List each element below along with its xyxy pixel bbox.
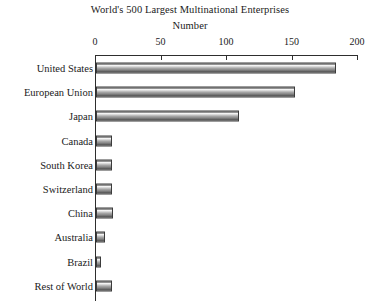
bar-switzerland: [96, 184, 112, 195]
category-label: Brazil: [67, 256, 93, 267]
bar-canada: [96, 135, 112, 146]
bar-row: European Union: [0, 80, 380, 104]
bar-row: Canada: [0, 129, 380, 153]
x-tick-label-150: 150: [284, 36, 299, 47]
bar-row: China: [0, 201, 380, 225]
bar-row: Brazil: [0, 250, 380, 274]
category-label: European Union: [24, 87, 93, 98]
x-tick-label-0: 0: [93, 36, 98, 47]
category-label: China: [68, 208, 93, 219]
bar-row: Australia: [0, 225, 380, 249]
x-tick-label-100: 100: [219, 36, 234, 47]
chart-title: World's 500 Largest Multinational Enterp…: [0, 4, 380, 15]
bar-european-union: [96, 87, 295, 98]
bar-south-korea: [96, 159, 112, 170]
axis-title: Number: [0, 20, 380, 31]
bar-row: United States: [0, 56, 380, 80]
bar-japan: [96, 111, 239, 122]
bar-row: South Korea: [0, 153, 380, 177]
bar-brazil: [96, 256, 101, 267]
bar-chart: World's 500 Largest Multinational Enterp…: [0, 0, 380, 306]
category-label: Canada: [62, 135, 94, 146]
category-label: United States: [37, 63, 93, 74]
category-label: Japan: [69, 111, 93, 122]
category-label: Rest of World: [35, 280, 93, 291]
bar-australia: [96, 232, 105, 243]
category-label: Australia: [55, 232, 94, 243]
bar-row: Japan: [0, 104, 380, 128]
category-label: South Korea: [40, 159, 93, 170]
x-tick-label-50: 50: [156, 36, 166, 47]
bar-china: [96, 208, 113, 219]
bar-row: Switzerland: [0, 177, 380, 201]
bar-row: Rest of World: [0, 274, 380, 298]
bar-united-states: [96, 63, 336, 74]
x-tick-label-200: 200: [350, 36, 365, 47]
category-label: Switzerland: [43, 184, 93, 195]
bar-rest-of-world: [96, 280, 112, 291]
